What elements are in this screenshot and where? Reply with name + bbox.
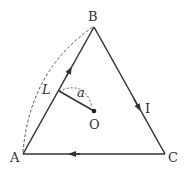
distance-arc xyxy=(59,88,92,107)
label-current: I xyxy=(145,101,150,116)
triangle-diagram: B A C O L a I xyxy=(0,0,186,173)
label-b: B xyxy=(88,9,98,24)
current-arrow-ab xyxy=(66,70,70,77)
label-c: C xyxy=(168,150,178,165)
label-side-length: L xyxy=(41,82,51,97)
label-a: A xyxy=(9,150,20,165)
center-point xyxy=(92,109,97,114)
side-bc xyxy=(94,27,165,154)
label-distance: a xyxy=(77,85,85,100)
current-arrow-bc xyxy=(134,99,139,108)
label-o: O xyxy=(89,117,100,132)
